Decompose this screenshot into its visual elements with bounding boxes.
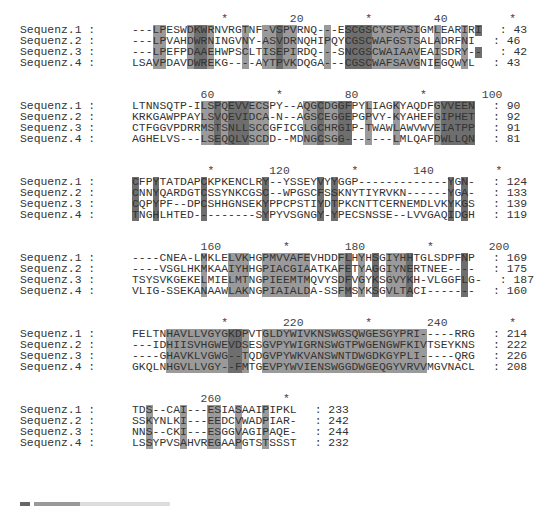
sequence-residues: GKQLNHGVLLVGY--FMTGEVPYWVIENSWGGDWGEQGYV… [132, 362, 475, 373]
sequence-position-count: : 119 [493, 210, 527, 221]
sequence-name: Sequenz.4 : [20, 438, 132, 449]
sequence-residues: LSSYPVSAHVREGAAPGTSTSSST [132, 438, 297, 449]
alignment-block: 60 * 80 * 100Sequenz.1 :LTNNSQTP-ILSPQEV… [20, 90, 534, 145]
sequence-residues: LSAVPDAVDWREKG----AYTPVKDQGA---CGSCWAFSA… [132, 58, 475, 69]
alignment-block: * 220 * 240 *Sequenz.1 :FELTNHAVLLVGYGKD… [20, 318, 534, 373]
sequence-name: Sequenz.4 : [20, 286, 132, 297]
alignment-block: * 20 * 40 *Sequenz.1 :---LPESWDKWRNVRGTN… [20, 14, 534, 69]
sequence-name: Sequenz.4 : [20, 362, 132, 373]
sequence-residues: TNGHLHTED---------SYPYVSGNGY-YPECSNSSE--… [132, 210, 475, 221]
alignment-block: 160 * 180 * 200Sequenz.1 :----CNEA-LMKLE… [20, 242, 534, 297]
sequence-position-count: : 43 [493, 58, 520, 69]
sequence-position-count: : 160 [493, 286, 527, 297]
cut-off-caption [20, 502, 170, 506]
sequence-row: Sequenz.4 :LSSYPVSAHVREGAAPGTSTSSST: 232 [20, 438, 534, 449]
sequence-row: Sequenz.4 :AGHELVS---LSEQQLVSCDD--MDNGCS… [20, 134, 534, 145]
sequence-residues: AGHELVS---LSEQQLVSCDD--MDNGCSGG-------LM… [132, 134, 475, 145]
sequence-name: Sequenz.4 : [20, 58, 132, 69]
alignment-block: * 120 * 140 *Sequenz.1 :CFPYTATDAPCKPKEN… [20, 166, 534, 221]
sequence-row: Sequenz.4 :VLIG-SSEKANAAWLAKNGPIAIALDA-S… [20, 286, 534, 297]
alignment: * 20 * 40 *Sequenz.1 :---LPESWDKWRNVRGTN… [20, 14, 534, 470]
sequence-position-count: : 232 [315, 438, 349, 449]
sequence-position-count: : 208 [493, 362, 527, 373]
sequence-position-count: : 81 [493, 134, 520, 145]
sequence-row: Sequenz.4 :GKQLNHGVLLVGY--FMTGEVPYWVIENS… [20, 362, 534, 373]
sequence-residues: VLIG-SSEKANAAWLAKNGPIAIALDA-SSFMSYKSGVLT… [132, 286, 475, 297]
sequence-name: Sequenz.4 : [20, 210, 132, 221]
sequence-row: Sequenz.4 :LSAVPDAVDWREKG----AYTPVKDQGA-… [20, 58, 534, 69]
sequence-row: Sequenz.4 :TNGHLHTED---------SYPYVSGNGY-… [20, 210, 534, 221]
alignment-block: 260 *Sequenz.1 :TDS--CAI---ESIASAAIPIPKL… [20, 394, 534, 449]
sequence-name: Sequenz.4 : [20, 134, 132, 145]
